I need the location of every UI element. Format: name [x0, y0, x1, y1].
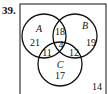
label-a: A — [35, 23, 43, 34]
region-ac: 11 — [42, 47, 52, 58]
region-ab: 18 — [55, 26, 65, 37]
region-c-only: 17 — [55, 70, 65, 81]
region-outside: 14 — [92, 81, 102, 92]
label-c: C — [57, 59, 64, 70]
region-abc: 4 — [59, 39, 64, 50]
venn-diagram: A B C 21 19 17 18 11 12 4 14 — [0, 0, 108, 94]
region-b-only: 19 — [86, 37, 96, 48]
region-bc: 12 — [69, 47, 79, 58]
region-a-only: 21 — [30, 37, 40, 48]
label-b: B — [82, 20, 88, 31]
